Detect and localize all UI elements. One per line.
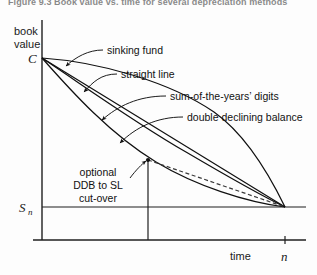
leader-sum-of-years-digits: [102, 96, 166, 120]
callout-line3: cut-over: [79, 192, 117, 204]
x-axis-label: time: [230, 250, 251, 262]
y-axis-value-c: C: [28, 51, 37, 66]
curve-ddb-to-sl-cutover-dashed: [148, 160, 285, 207]
depreciation-plot: book value C S n time n sinking fund str…: [0, 0, 317, 275]
y-axis-label-line1: book: [14, 25, 38, 37]
y-axis-value-salvage: S: [19, 200, 26, 215]
curve-label-sum-of-years-digits: sum-of-the-years’ digits: [170, 90, 279, 102]
curve-label-double-declining-balance: double declining balance: [187, 111, 303, 123]
y-axis-value-salvage-subscript: n: [28, 207, 33, 217]
callout-line1: optional: [80, 166, 117, 178]
depreciation-figure: Figure 9.3 Book value vs. time for sever…: [0, 0, 317, 275]
curve-label-sinking-fund: sinking fund: [107, 44, 163, 56]
callout-line2: DDB to SL: [73, 179, 123, 191]
y-axis-label-line2: value: [14, 38, 40, 50]
x-axis-tick-label-n: n: [281, 249, 288, 264]
curve-label-straight-line: straight line: [121, 68, 175, 80]
cut-over-point-marker: [146, 158, 150, 162]
leader-cut-over-callout: [130, 161, 146, 178]
